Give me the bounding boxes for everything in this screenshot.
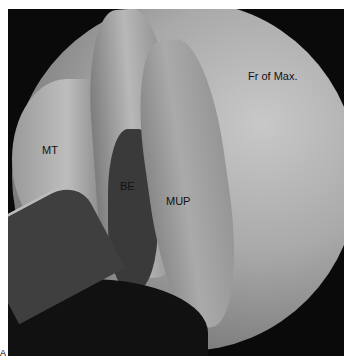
- label-mup: MUP: [166, 195, 190, 207]
- label-fr-of-max: Fr of Max.: [248, 70, 298, 82]
- figure: Fr of Max. MT BE MUP A: [0, 0, 347, 360]
- label-mt: MT: [42, 144, 58, 156]
- panel-letter: A: [0, 348, 6, 358]
- label-be: BE: [120, 180, 135, 192]
- endoscopic-image: [8, 9, 344, 356]
